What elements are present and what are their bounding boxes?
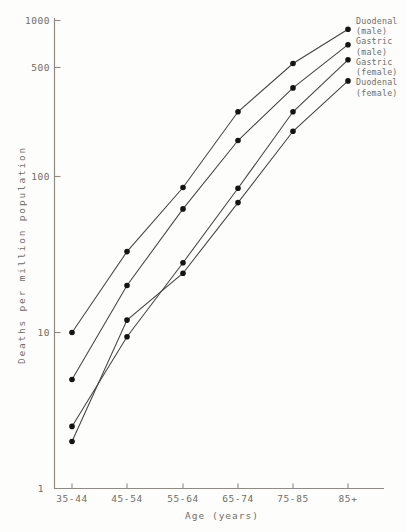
data-point (290, 109, 296, 115)
data-point (180, 185, 186, 191)
data-point (290, 129, 296, 135)
x-axis-title: Age (years) (185, 510, 259, 521)
data-point (69, 330, 75, 336)
data-point (180, 206, 186, 212)
data-point (69, 439, 75, 445)
x-axis-tick-label: 55-64 (167, 493, 199, 504)
y-axis-tick-label: 500 (31, 62, 50, 73)
y-axis-title: Deaths per million population (16, 146, 27, 364)
legend-label-line1: Duodenal (356, 16, 398, 26)
y-axis-tick-label: 10 (38, 327, 50, 338)
legend-label-line1: Gastric (356, 57, 392, 67)
y-axis-tick-label: 100 (31, 171, 50, 182)
legend-label-line1: Duodenal (356, 77, 398, 87)
data-point (124, 334, 130, 340)
legend-label-line2: (female) (356, 67, 398, 77)
data-point (290, 85, 296, 91)
y-axis-tick-label: 1000 (25, 15, 50, 26)
legend-label-line2: (male) (356, 26, 387, 36)
data-point (290, 61, 296, 67)
mortality-line-chart: 100050010010135-4445-5455-6465-7475-8585… (0, 0, 406, 532)
legend-label-line2: (male) (356, 47, 387, 57)
data-point (180, 260, 186, 266)
data-point (235, 200, 241, 206)
legend-label-line2: (female) (356, 88, 398, 98)
data-point (124, 249, 130, 255)
y-axis-tick-label: 1 (38, 483, 44, 494)
x-axis-tick-label: 85+ (339, 493, 358, 504)
data-point (235, 109, 241, 115)
figure-background (0, 0, 406, 532)
data-point (69, 377, 75, 383)
data-point (345, 57, 351, 63)
data-point (235, 138, 241, 144)
data-point (124, 283, 130, 289)
x-axis-tick-label: 35-44 (56, 493, 88, 504)
data-point (124, 317, 130, 323)
x-axis-tick-label: 45-54 (111, 493, 143, 504)
data-point (69, 424, 75, 430)
data-point (235, 186, 241, 192)
data-point (345, 78, 351, 84)
data-point (345, 42, 351, 48)
data-point (180, 270, 186, 276)
x-axis-tick-label: 65-74 (222, 493, 254, 504)
data-point (345, 26, 351, 32)
mortality-chart-figure: 100050010010135-4445-5455-6465-7475-8585… (0, 0, 406, 532)
x-axis-tick-label: 75-85 (277, 493, 309, 504)
legend-label-line1: Gastric (356, 36, 392, 46)
